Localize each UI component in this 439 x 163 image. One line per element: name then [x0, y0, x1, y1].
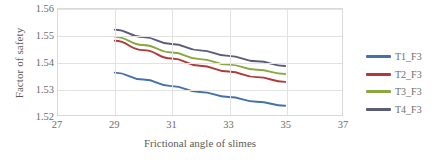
chart-figure: Factor of safety 1.521.531.541.551.56 27… — [0, 0, 439, 163]
x-axis-title: Frictional angle of slimes — [57, 137, 343, 149]
y-axis-tick-label: 1.56 — [36, 3, 54, 14]
chart-legend: T1_F3T2_F3T3_F3T4_F3 — [366, 48, 438, 118]
series-lines — [58, 9, 342, 115]
vertical-gridline — [115, 9, 116, 115]
legend-item-t3_f3[interactable]: T3_F3 — [366, 83, 438, 101]
legend-item-t2_f3[interactable]: T2_F3 — [366, 66, 438, 84]
legend-swatch-icon — [366, 90, 391, 93]
x-axis-tick-labels: 272931333537 — [57, 119, 343, 135]
x-axis-tick-label: 27 — [52, 119, 63, 130]
y-axis-tick-label: 1.54 — [36, 57, 54, 68]
horizontal-gridline — [58, 9, 342, 10]
legend-swatch-icon — [366, 108, 391, 111]
plot-area — [57, 8, 343, 116]
horizontal-gridline — [58, 63, 342, 64]
y-axis-tick-label: 1.55 — [36, 30, 54, 41]
horizontal-gridline — [58, 90, 342, 91]
legend-item-label: T1_F3 — [395, 51, 422, 62]
x-axis-tick-label: 31 — [166, 119, 177, 130]
legend-item-t4_f3[interactable]: T4_F3 — [366, 101, 438, 119]
legend-item-label: T3_F3 — [395, 86, 422, 97]
y-axis-tick-labels: 1.521.531.541.551.56 — [22, 8, 54, 116]
legend-swatch-icon — [366, 55, 391, 58]
vertical-gridline — [172, 9, 173, 115]
legend-swatch-icon — [366, 73, 391, 76]
series-line-t3_f3 — [115, 37, 285, 74]
x-axis-tick-label: 37 — [338, 119, 349, 130]
x-axis-tick-label: 29 — [109, 119, 120, 130]
vertical-gridline — [230, 9, 231, 115]
x-axis-tick-label: 35 — [281, 119, 292, 130]
legend-item-label: T4_F3 — [395, 104, 422, 115]
vertical-gridline — [287, 9, 288, 115]
x-axis-tick-label: 33 — [223, 119, 234, 130]
horizontal-gridline — [58, 36, 342, 37]
legend-item-t1_f3[interactable]: T1_F3 — [366, 48, 438, 66]
y-axis-tick-label: 1.53 — [36, 84, 54, 95]
legend-item-label: T2_F3 — [395, 69, 422, 80]
